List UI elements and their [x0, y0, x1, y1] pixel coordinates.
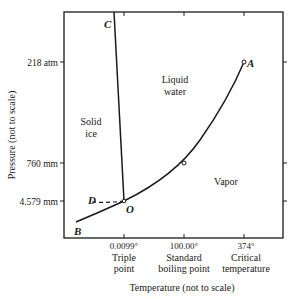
y-tick-760mm: 760 mm: [27, 159, 59, 169]
point-label-c: C: [104, 18, 112, 30]
region-vapor: Vapor: [214, 176, 239, 187]
x-tick-caption-critical-1: Critical: [231, 252, 261, 263]
region-liquid-line2: water: [164, 86, 187, 97]
point-label-b: B: [73, 225, 81, 237]
x-axis-label: Temperature (not to scale): [129, 282, 234, 294]
point-label-o: O: [126, 203, 134, 215]
x-tick-caption-boiling-2: boiling point: [158, 263, 210, 274]
x-tick-value-boiling: 100.00°: [170, 241, 199, 251]
x-ticks: [124, 12, 244, 238]
x-tick-caption-critical-2: temperature: [222, 263, 270, 274]
critical-point-marker: [242, 60, 246, 64]
region-solid-line1: Solid: [80, 116, 101, 127]
region-liquid-line1: Liquid: [162, 74, 189, 85]
point-label-d: D: [87, 194, 96, 206]
boiling-point-marker: [182, 161, 186, 165]
melting-curve-oc: [114, 12, 124, 201]
x-tick-caption-boiling-1: Standard: [166, 252, 202, 263]
x-tick-value-triple: 0.0099°: [110, 241, 139, 251]
x-tick-caption-triple-1: Triple: [112, 252, 137, 263]
x-tick-value-critical: 374°: [237, 241, 255, 251]
sublimation-curve-ob: [76, 201, 124, 222]
y-tick-218atm: 218 atm: [27, 58, 58, 68]
phase-diagram: C A D O B Solid ice Liquid water Vapor 2…: [0, 0, 293, 299]
y-tick-4579mm: 4.579 mm: [19, 197, 58, 207]
point-label-a: A: [246, 57, 254, 69]
y-axis-label: Pressure (not to scale): [6, 91, 18, 180]
x-tick-caption-triple-2: point: [114, 263, 135, 274]
supercooled-curve-od: [92, 201, 124, 202]
region-solid-line2: ice: [85, 128, 97, 139]
